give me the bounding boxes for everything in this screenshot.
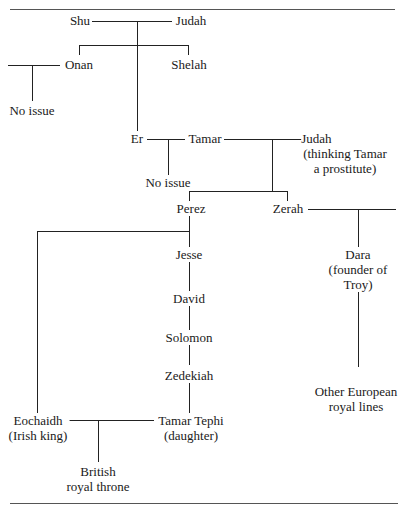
node-eochaidh: Eochaidh (Irish king) — [7, 413, 70, 443]
node-perez: Perez — [175, 201, 208, 216]
node-other-european-royal-lines: Other European royal lines — [313, 384, 400, 414]
node-jesse: Jesse — [174, 247, 205, 262]
node-david: David — [171, 291, 207, 306]
node-dara: Dara (founder of Troy) — [327, 247, 390, 292]
irish-branch-descent-line — [37, 231, 38, 421]
er-tamar-line — [147, 139, 185, 140]
eochaidh-tamar-tephi-line — [64, 420, 154, 421]
onan-union-line — [8, 65, 60, 66]
shu-judah-line — [92, 21, 172, 22]
onan-drop-line — [79, 45, 80, 55]
node-zedekiah: Zedekiah — [163, 368, 215, 383]
top-rule — [10, 9, 395, 10]
onan-no-issue-line — [32, 65, 33, 101]
zerah-line — [308, 209, 396, 210]
node-no-issue-er: No issue — [143, 175, 192, 190]
tamar-judah-descent-line — [272, 139, 273, 192]
perez-drop-line — [189, 191, 190, 201]
british-throne-line — [98, 420, 99, 462]
node-onan: Onan — [63, 57, 95, 72]
tamar-judah-line — [224, 139, 310, 140]
node-shelah: Shelah — [169, 57, 208, 72]
node-no-issue-onan: No issue — [7, 103, 56, 118]
zerah-drop-line — [287, 191, 288, 201]
node-tamar: Tamar — [186, 131, 223, 146]
node-judah-top: Judah — [174, 13, 208, 28]
node-solomon: Solomon — [164, 330, 215, 345]
node-tamar-tephi: Tamar Tephi (daughter) — [156, 413, 225, 443]
bottom-rule — [10, 503, 398, 504]
shu-judah-descent-line — [137, 21, 138, 131]
perez-irish-branch-line — [37, 231, 189, 232]
twins-bar-line — [189, 191, 288, 192]
node-er: Er — [129, 131, 145, 146]
sons-bar-line — [79, 45, 189, 46]
node-shu: Shu — [68, 13, 92, 28]
er-no-issue-line — [168, 139, 169, 175]
node-british-royal-throne: British royal throne — [64, 464, 131, 494]
shelah-drop-line — [188, 45, 189, 55]
node-zerah: Zerah — [271, 201, 305, 216]
node-judah-mid: Judah (thinking Tamar a prostitute) — [301, 131, 389, 176]
